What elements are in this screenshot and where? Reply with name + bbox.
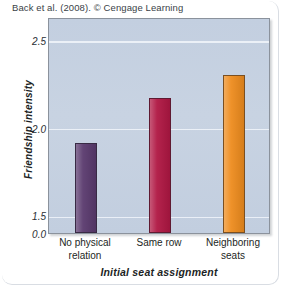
y-tick-label: 2.5 — [20, 35, 46, 46]
x-axis-title: Initial seat assignment — [48, 266, 270, 278]
y-tick-label: 1.5 — [20, 211, 46, 222]
bars-group — [49, 19, 269, 233]
bar-sheen — [76, 144, 96, 232]
bar — [75, 143, 97, 233]
bar-sheen — [224, 76, 244, 232]
y-axis-tick-labels: 0.01.52.02.5 — [20, 18, 46, 234]
plot-area — [48, 18, 270, 234]
x-tick-label: No physical relation — [48, 237, 122, 262]
figure-card: Back et al. (2008). © Cengage Learning F… — [0, 0, 281, 287]
bar — [223, 75, 245, 233]
source-caption: Back et al. (2008). © Cengage Learning — [12, 2, 183, 13]
bar — [149, 98, 171, 233]
x-tick-label: Neighboring seats — [196, 237, 270, 262]
x-tick-label: Same row — [122, 237, 196, 250]
bar-sheen — [150, 99, 170, 232]
x-axis-tick-labels: No physical relationSame rowNeighboring … — [48, 237, 270, 265]
y-tick-label: 2.0 — [20, 123, 46, 134]
y-tick-label: 0.0 — [20, 229, 46, 240]
